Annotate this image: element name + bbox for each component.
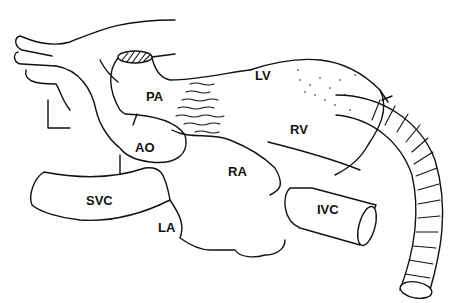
label-ivc: IVC <box>317 202 339 217</box>
heart-diagram <box>0 0 458 303</box>
label-la: LA <box>158 220 175 235</box>
label-ao: AO <box>135 140 155 155</box>
label-ra: RA <box>228 164 247 179</box>
label-rv: RV <box>290 122 308 137</box>
pulmonary-artery <box>100 51 250 130</box>
left-ventricle-stipple <box>297 69 356 111</box>
label-pa: PA <box>146 89 163 104</box>
ivc <box>285 188 380 247</box>
conduit-graft <box>336 90 443 301</box>
label-svc: SVC <box>86 193 113 208</box>
atrial-shading <box>176 83 224 133</box>
label-lv: LV <box>255 68 271 83</box>
